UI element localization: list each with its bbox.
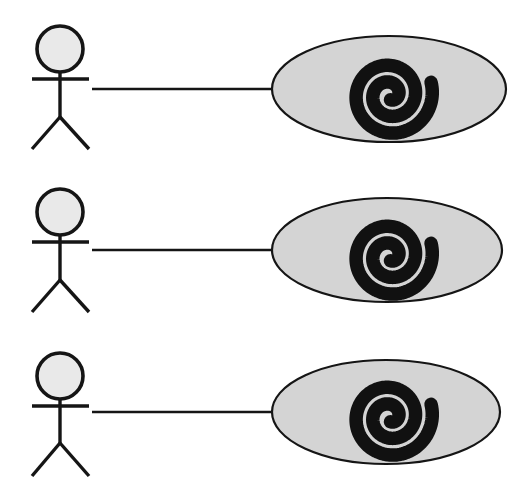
use-case-node[interactable]: [272, 36, 506, 142]
use-case-node[interactable]: [272, 360, 500, 464]
use-case-node[interactable]: [272, 198, 502, 302]
diagram-svg: [0, 0, 527, 496]
actor-head[interactable]: [37, 26, 83, 72]
use-case-diagram-canvas: [0, 0, 527, 496]
actor-head[interactable]: [37, 189, 83, 235]
use-case-ellipse[interactable]: [272, 198, 502, 302]
actor-head[interactable]: [37, 353, 83, 399]
use-case-ellipse[interactable]: [272, 36, 506, 142]
